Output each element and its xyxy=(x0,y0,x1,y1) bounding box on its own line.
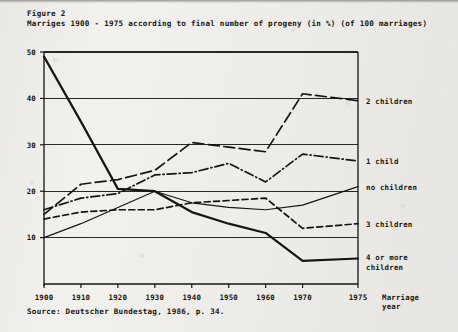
svg-text:1910: 1910 xyxy=(72,293,91,302)
svg-text:10: 10 xyxy=(27,233,36,242)
svg-text:1920: 1920 xyxy=(109,293,128,302)
chart-area: 1020304050 19001910192019301940195019601… xyxy=(0,0,458,332)
y-axis-tick-labels: 1020304050 xyxy=(27,48,36,243)
svg-text:1 child: 1 child xyxy=(366,157,399,166)
svg-text:1940: 1940 xyxy=(182,293,201,302)
plot-frame xyxy=(44,52,358,286)
data-series-lines xyxy=(44,57,358,261)
svg-text:3 children: 3 children xyxy=(366,220,413,229)
svg-text:40: 40 xyxy=(27,94,36,103)
svg-text:1900: 1900 xyxy=(35,293,54,302)
svg-text:2 children: 2 children xyxy=(366,97,413,106)
source-note: Source: Deutscher Bundestag, 1986, p. 34… xyxy=(27,307,225,316)
page-top-edge xyxy=(0,0,458,3)
svg-text:30: 30 xyxy=(27,141,36,150)
x-axis-tick-labels: 190019101920193019401950196019701975 xyxy=(35,293,368,302)
svg-text:children: children xyxy=(366,263,403,272)
svg-text:1975: 1975 xyxy=(349,293,368,302)
svg-text:1950: 1950 xyxy=(219,293,238,302)
gridlines xyxy=(44,52,358,238)
svg-text:20: 20 xyxy=(27,187,36,196)
svg-text:1970: 1970 xyxy=(293,293,312,302)
legend: 2 children1 childno children3 children4 … xyxy=(366,97,417,272)
x-axis-title: Marriageyear xyxy=(382,293,420,311)
line-chart: 1020304050 19001910192019301940195019601… xyxy=(0,0,458,332)
svg-text:no children: no children xyxy=(366,183,417,192)
svg-text:year: year xyxy=(382,302,401,311)
svg-text:1960: 1960 xyxy=(256,293,275,302)
svg-text:1930: 1930 xyxy=(146,293,165,302)
svg-text:Marriage: Marriage xyxy=(382,293,420,302)
svg-text:50: 50 xyxy=(27,48,36,57)
svg-text:4 or more: 4 or more xyxy=(366,253,408,262)
